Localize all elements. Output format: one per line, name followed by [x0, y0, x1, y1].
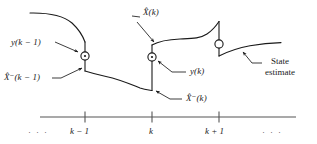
label-state-estimate-line1: State — [265, 56, 295, 67]
axis-label-k-minus-1: k − 1 — [70, 126, 89, 136]
label-measurement-k: y(k) — [190, 66, 204, 77]
axis-label-k: k — [149, 126, 153, 136]
prediction-after-k-plus-1-path — [219, 43, 281, 56]
label-state-estimate: State estimate — [265, 56, 295, 78]
label-apriori-k: X̂⁻(k) — [186, 93, 207, 104]
leader-aposteriori-k — [132, 16, 140, 17]
label-aposteriori-k-text: X̂(k) — [143, 7, 159, 17]
leader-state-estimate — [243, 52, 262, 63]
update-marker-k-plus-1 — [215, 40, 223, 48]
leader-measurement-prev — [55, 42, 78, 52]
update-marker-k-minus-1-dot — [84, 55, 86, 57]
update-marker-k-dot — [151, 56, 153, 58]
axis-ellipsis-left: · · · — [28, 127, 49, 137]
prediction-k-to-k-plus-1-path — [152, 22, 219, 46]
label-aposteriori-k: X̂(k) — [143, 7, 159, 18]
leader-aposteriori-k-arrow — [137, 22, 154, 42]
label-apriori-prev: X̂⁻(k − 1) — [4, 72, 40, 83]
label-measurement-prev: y(k − 1) — [11, 37, 41, 48]
leader-apriori-prev — [52, 68, 82, 78]
leader-apriori-k — [156, 91, 182, 99]
time-axis — [40, 112, 296, 123]
label-apriori-prev-text: X̂⁻(k − 1) — [4, 72, 40, 82]
prediction-k-minus-1-to-k-path — [85, 71, 152, 91]
label-measurement-k-text: y(k) — [190, 66, 204, 76]
label-state-estimate-line2: estimate — [265, 67, 295, 78]
axis-label-k-plus-1: k + 1 — [205, 126, 224, 136]
label-measurement-prev-text: y(k − 1) — [11, 37, 41, 47]
state-estimate-figure: y(k − 1) X̂⁻(k − 1) X̂(k) y(k) X̂⁻(k) St… — [0, 0, 317, 144]
state-estimate-trace — [30, 13, 281, 91]
axis-ellipsis-right: · · · — [262, 127, 283, 137]
label-apriori-k-text: X̂⁻(k) — [186, 93, 207, 103]
leader-measurement-k — [158, 61, 186, 72]
